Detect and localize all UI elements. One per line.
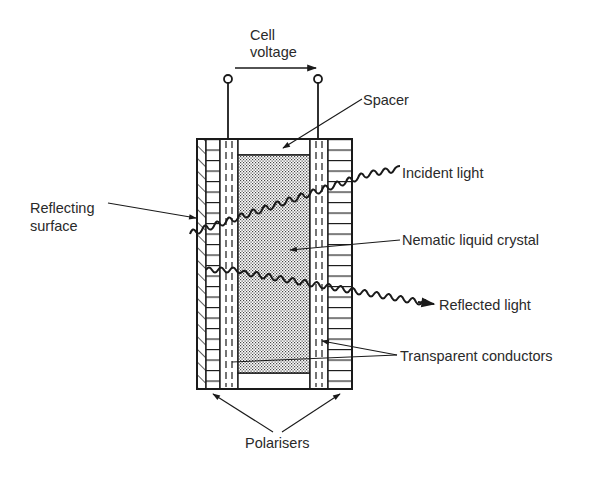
label-incident-light: Incident light (402, 165, 483, 181)
cell-voltage-line2: voltage (250, 44, 297, 60)
svg-text:Transparent conductors: Transparent conductors (400, 348, 553, 364)
terminal-left (224, 75, 232, 139)
spacer-bottom (238, 373, 310, 389)
svg-text:surface: surface (30, 218, 78, 234)
svg-text:Polarisers: Polarisers (245, 435, 309, 451)
svg-text:Nematic liquid crystal: Nematic liquid crystal (402, 232, 539, 248)
polariser-left (206, 139, 220, 389)
conductor-left (220, 139, 238, 389)
nematic-liquid-crystal (238, 155, 310, 373)
lcd-cell-diagram: Cell voltage (0, 0, 608, 477)
svg-text:Reflecting: Reflecting (30, 200, 94, 216)
conductor-right (310, 139, 328, 389)
spacer-top (238, 139, 310, 155)
reflecting-surface (197, 139, 206, 389)
label-polarisers: Polarisers (213, 394, 340, 451)
svg-text:Reflected light: Reflected light (439, 297, 531, 313)
terminal-right (314, 75, 322, 139)
label-reflecting-surface: Reflecting surface (30, 200, 196, 234)
label-reflected-light: Reflected light (439, 297, 531, 313)
svg-text:Incident light: Incident light (402, 165, 483, 181)
svg-text:Spacer: Spacer (363, 92, 409, 108)
cell-voltage-line1: Cell (250, 27, 275, 43)
cell-voltage-label: Cell voltage (235, 27, 316, 68)
lcd-cell (197, 139, 352, 389)
polariser-right (328, 139, 352, 389)
